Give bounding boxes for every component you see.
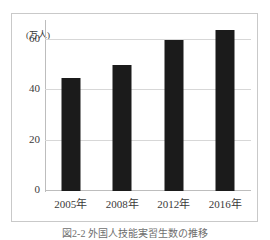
x-tick-label: 2005年	[54, 199, 87, 210]
bar[interactable]	[61, 78, 80, 191]
bars-group: 2005年2008年2012年2016年	[45, 20, 251, 191]
x-tick-label: 2016年	[209, 199, 242, 210]
bar-group: 2016年	[200, 20, 252, 191]
bar-group: 2005年	[45, 20, 97, 191]
x-tick-label: 2012年	[157, 199, 190, 210]
plot-area: 0204060 2005年2008年2012年2016年	[45, 20, 251, 191]
bar-group: 2012年	[148, 20, 200, 191]
y-tick-label-40: 40	[29, 84, 40, 95]
x-tick-label: 2008年	[106, 199, 139, 210]
bar-group: 2008年	[97, 20, 149, 191]
bar[interactable]	[164, 40, 183, 191]
figure-container: (万人) 0204060 2005年2008年2012年2016年 図2-2 外…	[0, 0, 270, 240]
bar[interactable]	[113, 65, 132, 191]
figure-caption: 図2-2 外国人技能実習生数の推移	[0, 228, 270, 240]
chart-frame: (万人) 0204060 2005年2008年2012年2016年	[11, 13, 258, 222]
y-tick-label-60: 60	[29, 33, 40, 44]
y-tick-label-0: 0	[35, 184, 41, 195]
y-tick-label-20: 20	[29, 134, 40, 145]
bar[interactable]	[216, 30, 235, 191]
